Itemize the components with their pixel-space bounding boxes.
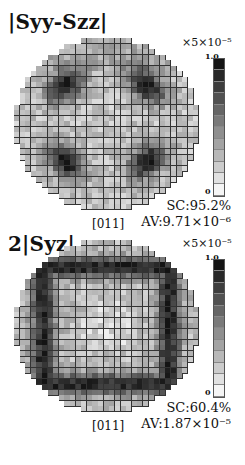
axis-label: [011] bbox=[92, 217, 124, 231]
av-annotation: AV:1.87×10⁻⁵ bbox=[141, 416, 231, 431]
heatmap-cell bbox=[182, 368, 188, 374]
colorbar bbox=[213, 259, 225, 398]
heatmap-disc bbox=[14, 38, 199, 210]
colorbar-segment bbox=[214, 374, 224, 385]
colorbar-min-label: 0 bbox=[205, 186, 211, 196]
colorbar-segment bbox=[214, 59, 224, 70]
scale-factor: ×5×10⁻⁵ bbox=[182, 36, 232, 49]
colorbar-segment bbox=[214, 127, 224, 138]
colorbar-segment bbox=[214, 283, 224, 294]
heatmap-cell bbox=[160, 188, 166, 194]
colorbar-segment bbox=[214, 317, 224, 328]
heatmap-cell bbox=[165, 384, 171, 390]
panel-syz: 2|Syz| ×5×10⁻⁵ 1.0 0 SC:60.4% AV:1.87×10… bbox=[0, 232, 245, 465]
heatmap-cell bbox=[143, 401, 149, 407]
heatmap-cell bbox=[149, 395, 155, 401]
colorbar-segment bbox=[214, 173, 224, 184]
colorbar-segment bbox=[214, 271, 224, 282]
heatmap-cell bbox=[177, 171, 183, 177]
colorbar-segment bbox=[214, 363, 224, 374]
panel-title: |Syy-Szz| bbox=[8, 10, 108, 34]
colorbar-segment bbox=[214, 139, 224, 150]
heatmap-cell bbox=[182, 166, 188, 172]
colorbar-segment bbox=[214, 70, 224, 81]
heatmap-cell bbox=[126, 406, 132, 412]
colorbar-segment bbox=[214, 150, 224, 161]
heatmap-cell bbox=[126, 204, 132, 210]
heatmap-cell bbox=[160, 390, 166, 396]
colorbar-min-label: 0 bbox=[205, 387, 211, 397]
heatmap-disc bbox=[14, 240, 199, 412]
colorbar-segment bbox=[214, 105, 224, 116]
colorbar-segment bbox=[214, 340, 224, 351]
heatmap-cell bbox=[171, 379, 177, 385]
panel-syy-szz: |Syy-Szz| ×5×10⁻⁵ 1.0 0 SC:95.2% AV:9.71… bbox=[0, 0, 245, 232]
colorbar bbox=[213, 58, 225, 197]
colorbar-segment bbox=[214, 351, 224, 362]
heatmap-cell bbox=[177, 373, 183, 379]
sc-annotation: SC:60.4% bbox=[166, 400, 231, 415]
colorbar-segment bbox=[214, 294, 224, 305]
colorbar-segment bbox=[214, 385, 224, 396]
heatmap-cell bbox=[149, 193, 155, 199]
colorbar-segment bbox=[214, 162, 224, 173]
colorbar-segment bbox=[214, 184, 224, 195]
heatmap-cell bbox=[193, 340, 199, 346]
colorbar-segment bbox=[214, 93, 224, 104]
colorbar-segment bbox=[214, 116, 224, 127]
heatmap-cell bbox=[188, 357, 194, 363]
heatmap-cell bbox=[193, 138, 199, 144]
axis-label: [011] bbox=[92, 419, 124, 433]
colorbar-segment bbox=[214, 328, 224, 339]
heatmap-cell bbox=[188, 155, 194, 161]
heatmap-cell bbox=[143, 199, 149, 205]
colorbar-segment bbox=[214, 306, 224, 317]
colorbar-segment bbox=[214, 260, 224, 271]
av-annotation: AV:9.71×10⁻⁶ bbox=[141, 214, 231, 229]
scale-factor: ×5×10⁻⁵ bbox=[182, 237, 232, 250]
sc-annotation: SC:95.2% bbox=[166, 198, 231, 213]
colorbar-segment bbox=[214, 82, 224, 93]
heatmap-cell bbox=[171, 177, 177, 183]
heatmap-cell bbox=[165, 182, 171, 188]
